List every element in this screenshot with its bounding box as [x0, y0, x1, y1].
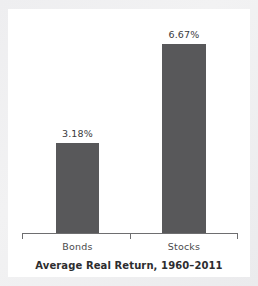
x-axis-tick-left [22, 234, 23, 239]
bar-bonds [56, 143, 99, 233]
chart-title: Average Real Return, 1960–2011 [8, 260, 250, 271]
plot-area: 3.18% 6.67% Bonds Stocks Average Real Re… [8, 9, 250, 277]
bar-value-label-bonds: 3.18% [41, 128, 114, 139]
x-axis-tick-right [237, 234, 238, 239]
x-axis-label-bonds: Bonds [41, 241, 114, 252]
x-axis-tick-center [130, 234, 131, 239]
bar-value-label-stocks: 6.67% [147, 29, 221, 40]
bar-stocks [162, 44, 206, 233]
figure-frame: 3.18% 6.67% Bonds Stocks Average Real Re… [0, 0, 258, 286]
chart-panel: 3.18% 6.67% Bonds Stocks Average Real Re… [8, 9, 250, 277]
x-axis-label-stocks: Stocks [147, 241, 221, 252]
